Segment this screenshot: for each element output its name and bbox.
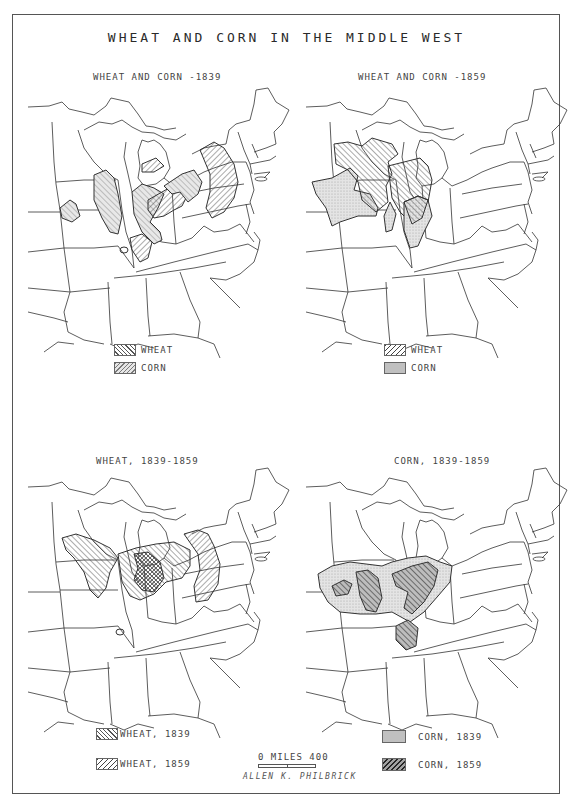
legend-label: WHEAT <box>141 345 173 355</box>
legend-item-wheat-1859: WHEAT, 1859 <box>96 758 191 770</box>
legend-item-corn-1839-map: CORN <box>114 362 167 374</box>
corn-1839-swatch <box>382 730 406 743</box>
legend-item-wheat-1859-map: WHEAT <box>384 344 443 356</box>
author-credit: ALLEN K. PHILBRICK <box>243 772 357 781</box>
legend-label: WHEAT <box>411 345 443 355</box>
map-wheat-corn-1839 <box>28 88 289 358</box>
scale-label: 0 MILES 400 <box>258 752 329 762</box>
wheat-hatch-swatch <box>384 344 406 356</box>
wheat-1859-swatch <box>96 758 118 770</box>
legend-label: WHEAT, 1839 <box>120 729 191 739</box>
wheat-hatch-swatch <box>114 344 136 356</box>
legend-item-wheat-1839-map: WHEAT <box>114 344 173 356</box>
legend-label: CORN <box>141 363 167 373</box>
legend-item-corn-1859: CORN, 1859 <box>382 758 482 771</box>
legend-item-wheat-1839: WHEAT, 1839 <box>96 728 191 740</box>
corn-stipple-swatch <box>384 362 406 374</box>
corn-1859-swatch <box>382 758 406 771</box>
wheat-1839-swatch <box>96 728 118 740</box>
corn-hatch-swatch <box>114 362 136 374</box>
map-wheat-corn-1859 <box>306 88 567 358</box>
map-corn-1839-1859 <box>306 468 567 738</box>
legend-label: CORN <box>411 363 437 373</box>
legend-label: CORN, 1859 <box>418 760 482 770</box>
legend-label: WHEAT, 1859 <box>120 759 191 769</box>
maps-canvas <box>0 0 573 803</box>
legend-label: CORN, 1839 <box>418 732 482 742</box>
legend-item-corn-1839: CORN, 1839 <box>382 730 482 743</box>
map-wheat-1839-1859 <box>28 468 289 738</box>
legend-item-corn-1859-map: CORN <box>384 362 437 374</box>
scale-bar <box>258 764 316 768</box>
